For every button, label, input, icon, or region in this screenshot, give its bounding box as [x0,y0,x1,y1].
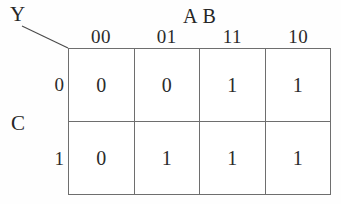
karnaugh-map: Y AB C 00 01 11 10 0 1 0 0 1 1 0 1 1 1 [0,0,341,204]
kmap-row-c1: 0 1 1 1 [69,122,330,194]
row-header-1: 1 [40,122,64,196]
row-header-0: 0 [40,48,64,122]
column-header-11: 11 [200,27,266,47]
cell-c0-ab00: 0 [69,49,135,121]
cell-c0-ab11: 1 [200,49,266,121]
kmap-grid: 0 0 1 1 0 1 1 1 [68,48,331,195]
row-header-column: 0 1 [40,48,64,195]
column-variable-label: AB [68,6,331,26]
column-header-00: 00 [68,27,134,47]
cell-c1-ab10: 1 [266,122,331,194]
kmap-row-c0: 0 0 1 1 [69,49,330,122]
output-variable-label: Y [10,4,25,25]
cell-c1-ab00: 0 [69,122,135,194]
cell-c0-ab10: 1 [266,49,331,121]
column-header-row: 00 01 11 10 [68,27,331,47]
column-variable-b: B [203,5,216,27]
column-variable-a: A [183,5,197,27]
cell-c1-ab01: 1 [135,122,201,194]
cell-c0-ab01: 0 [135,49,201,121]
column-header-01: 01 [134,27,200,47]
column-header-10: 10 [265,27,331,47]
cell-c1-ab11: 1 [200,122,266,194]
row-variable-label: C [11,113,25,134]
